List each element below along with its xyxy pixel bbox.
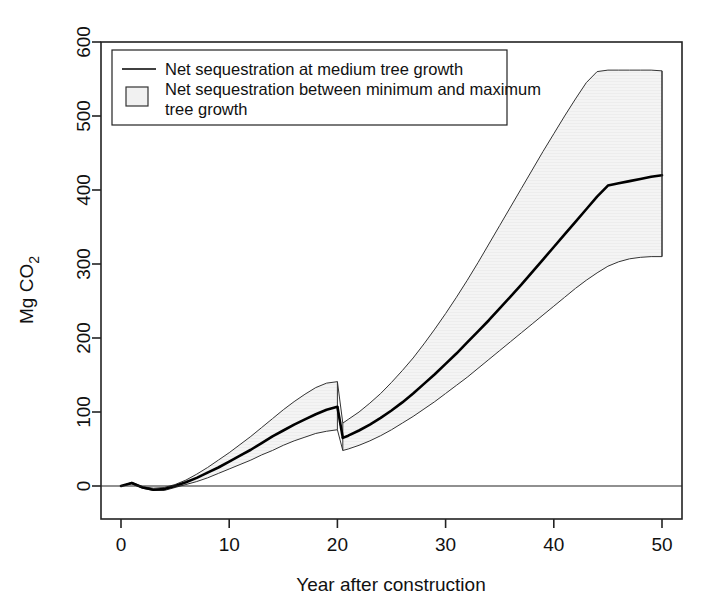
y-tick-label-100: 100 xyxy=(73,396,94,428)
box-marker-icon xyxy=(126,87,148,106)
x-tick-label-10: 10 xyxy=(219,534,240,555)
legend-label-medium: Net sequestration at medium tree growth xyxy=(165,60,463,78)
legend-label-range-line2: tree growth xyxy=(165,100,248,118)
sequestration-area-chart: 010020030040050060001020304050 Net seque… xyxy=(0,0,709,609)
y-axis-title-main: Mg CO xyxy=(16,264,37,324)
x-tick-label-20: 20 xyxy=(327,534,348,555)
y-tick-label-500: 500 xyxy=(73,100,94,132)
y-tick-label-400: 400 xyxy=(73,174,94,206)
chart-legend: Net sequestration at medium tree growth … xyxy=(112,50,541,125)
y-tick-label-0: 0 xyxy=(73,481,94,492)
y-axis-title-sub: 2 xyxy=(26,256,42,264)
x-axis-title: Year after construction xyxy=(296,574,485,595)
chart-figure: 010020030040050060001020304050 Net seque… xyxy=(0,0,709,609)
y-tick-label-600: 600 xyxy=(73,26,94,58)
x-tick-label-40: 40 xyxy=(543,534,564,555)
x-tick-label-30: 30 xyxy=(435,534,456,555)
y-tick-label-200: 200 xyxy=(73,322,94,354)
y-tick-label-300: 300 xyxy=(73,248,94,280)
x-tick-label-0: 0 xyxy=(116,534,127,555)
legend-label-range-line1: Net sequestration between minimum and ma… xyxy=(165,80,541,98)
x-tick-label-50: 50 xyxy=(651,534,672,555)
